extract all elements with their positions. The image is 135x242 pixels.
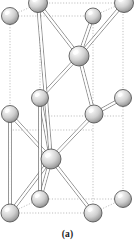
atom-mid-left-inner <box>32 90 49 107</box>
atom-sphere <box>84 204 102 222</box>
atom-sphere <box>2 106 19 123</box>
bond-fill <box>79 3 124 56</box>
crystal-structure-figure: (a) <box>0 0 135 242</box>
atom-sphere <box>115 191 132 208</box>
atom-bottom-center-corner <box>84 204 102 222</box>
bond <box>9 114 12 213</box>
bond <box>37 3 53 159</box>
bonds-layer <box>9 2 126 214</box>
atom-sphere <box>32 90 49 107</box>
atom-bottom-inner-left <box>32 191 49 208</box>
atom-upper-hub <box>69 46 89 66</box>
atom-mid-right-outer <box>115 90 132 107</box>
atom-sphere <box>32 191 49 208</box>
atom-bottom-left-corner <box>1 204 19 222</box>
atom-sphere <box>41 149 61 169</box>
atom-sphere <box>85 8 101 24</box>
atom-mid-center-right <box>85 105 103 123</box>
atoms-layer <box>1 0 134 222</box>
atom-top-left-corner <box>2 8 19 25</box>
atom-mid-left-edge <box>2 106 19 123</box>
atom-sphere <box>1 204 19 222</box>
atom-sphere <box>85 105 103 123</box>
atom-sphere <box>115 90 132 107</box>
crystal-structure-svg <box>0 0 135 242</box>
bond-edge <box>78 2 123 55</box>
atom-lower-hub <box>41 149 61 169</box>
atom-bottom-right-edge <box>115 191 132 208</box>
atom-top-inner-right <box>85 8 101 24</box>
figure-caption: (a) <box>0 229 135 239</box>
atom-sphere <box>69 46 89 66</box>
atom-sphere <box>2 8 19 25</box>
